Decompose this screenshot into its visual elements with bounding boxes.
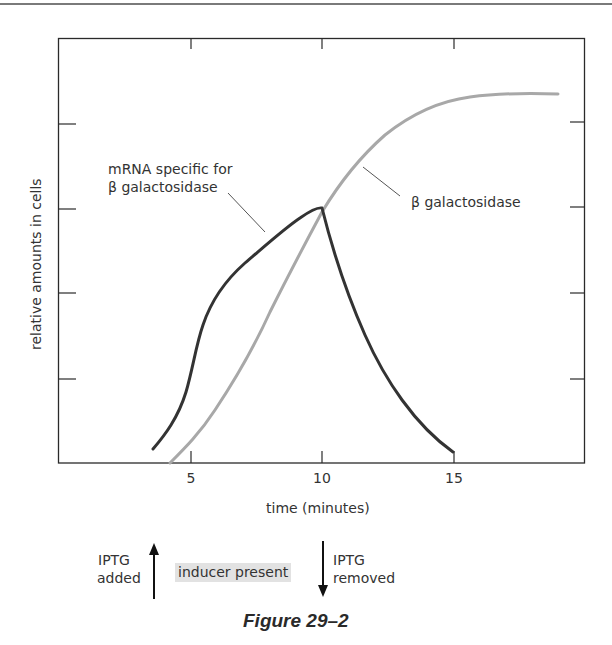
- x-tick-5: 5: [187, 470, 196, 486]
- x-tick-15: 15: [445, 470, 463, 486]
- x-tick-10: 10: [313, 470, 331, 486]
- y-axis-ticks-left: [58, 124, 76, 379]
- iptg-added-line2: added: [97, 570, 141, 587]
- inducer-present-label: inducer present: [175, 563, 291, 582]
- arrow-down-icon: [318, 541, 328, 597]
- plot-frame: [59, 39, 585, 464]
- mrna-label-line1: mRNA specific for: [108, 160, 232, 178]
- enzyme-leader-line: [363, 167, 400, 196]
- mrna-label-line2: β galactosidase: [108, 178, 218, 196]
- iptg-added-line1: IPTG: [98, 552, 130, 569]
- iptg-removed-line2: removed: [333, 570, 395, 587]
- mrna-curve: [153, 208, 453, 452]
- mrna-leader-line: [228, 193, 265, 232]
- line-chart: [0, 0, 612, 645]
- x-axis-label: time (minutes): [266, 499, 370, 517]
- y-axis-label: relative amounts in cells: [27, 178, 45, 350]
- x-axis-ticks: [191, 451, 454, 463]
- figure-caption: Figure 29–2: [243, 610, 349, 632]
- top-ticks: [191, 39, 454, 49]
- y-axis-ticks-right: [570, 122, 585, 379]
- iptg-removed-line1: IPTG: [333, 552, 365, 569]
- enzyme-label: β galactosidase: [411, 193, 521, 211]
- arrow-up-icon: [149, 543, 159, 599]
